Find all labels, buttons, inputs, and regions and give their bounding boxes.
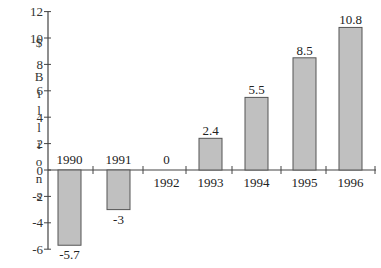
value-label: 5.5 xyxy=(248,82,264,97)
category-label: 1995 xyxy=(292,175,318,190)
category-label: 1994 xyxy=(244,175,271,190)
value-label: 0 xyxy=(163,152,170,167)
y-tick-label: 12 xyxy=(30,4,43,19)
bar-1993 xyxy=(199,138,222,170)
category-label: 1992 xyxy=(154,175,180,190)
bar-1994 xyxy=(245,97,268,170)
labels: -5.71990-31991019922.419935.519948.51995… xyxy=(57,12,365,262)
category-label: 1990 xyxy=(57,152,83,167)
bar-1996 xyxy=(339,27,362,170)
y-tick-label: 0 xyxy=(37,163,44,178)
bar-chart: -6-4-2024681012 -5.71990-31991019922.419… xyxy=(0,0,381,268)
y-tick-label: -4 xyxy=(32,215,43,230)
category-label: 1996 xyxy=(338,175,365,190)
category-label: 1991 xyxy=(106,152,132,167)
value-label: -3 xyxy=(113,212,124,227)
category-label: 1993 xyxy=(198,175,224,190)
y-tick-label: 6 xyxy=(37,83,44,98)
bar-1990 xyxy=(58,170,81,245)
value-label: 8.5 xyxy=(296,43,312,58)
y-tick-label: 8 xyxy=(37,57,44,72)
bar-1995 xyxy=(293,58,316,170)
y-tick-label: -2 xyxy=(32,189,43,204)
value-label: 2.4 xyxy=(202,123,219,138)
value-label: -5.7 xyxy=(59,247,80,262)
y-tick-label: 2 xyxy=(37,136,44,151)
value-label: 10.8 xyxy=(339,12,362,27)
y-tick-label: 4 xyxy=(37,110,44,125)
bar-1991 xyxy=(107,170,130,210)
y-tick-label: -6 xyxy=(32,242,43,257)
y-tick-label: 10 xyxy=(30,31,43,46)
